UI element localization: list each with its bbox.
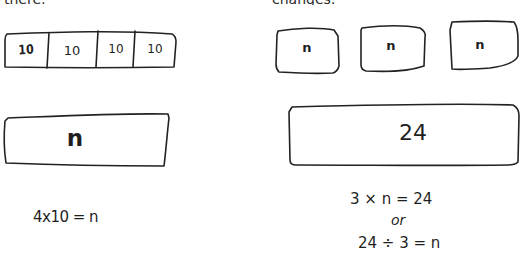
tape-divider-1 bbox=[47, 33, 49, 68]
group-box-3-label: n bbox=[460, 37, 500, 52]
right-total-box-label: 24 bbox=[373, 120, 453, 145]
tape-cell-1-label: 10 bbox=[9, 41, 44, 58]
group-box-2-label: n bbox=[371, 38, 411, 53]
left-equation: 4x10 = n bbox=[33, 208, 98, 226]
group-box-1-label: n bbox=[287, 40, 327, 55]
tape-cell-4-label: 10 bbox=[135, 42, 175, 56]
tape-cell-3-label: 10 bbox=[96, 42, 136, 56]
right-equation-2: 24 ÷ 3 = n bbox=[358, 234, 440, 252]
tape-cell-2-label: 10 bbox=[52, 43, 92, 58]
right-equation-connector: or bbox=[391, 212, 405, 228]
right-equation-1: 3 × n = 24 bbox=[350, 190, 432, 208]
left-total-box-label: n bbox=[35, 125, 115, 151]
